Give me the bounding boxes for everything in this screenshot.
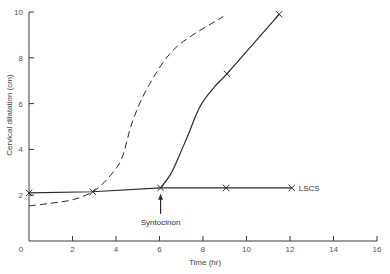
axes: 0246810121416246810	[14, 8, 382, 254]
x-tick-label: 10	[242, 245, 251, 254]
x-marker-icon	[276, 11, 282, 17]
x-tick-label: 6	[157, 245, 162, 254]
x-tick-label: 14	[329, 245, 338, 254]
y-tick-label: 2	[19, 191, 24, 200]
series-layer	[26, 11, 295, 206]
labour-progress-chart: 0246810121416246810 SyntocinonLSCS Time …	[0, 0, 390, 274]
y-tick-label: 8	[19, 54, 24, 63]
annotations-layer: SyntocinonLSCS	[141, 184, 320, 227]
syntocinon-label: Syntocinon	[141, 218, 181, 227]
x-marker-icon	[224, 71, 230, 77]
lscs-label: LSCS	[299, 184, 320, 193]
dashed-curve-line	[29, 17, 223, 206]
x-tick-label: 12	[286, 245, 295, 254]
x-tick-label: 8	[201, 245, 206, 254]
x-tick-label: 16	[373, 245, 382, 254]
y-tick-label: 6	[19, 100, 24, 109]
x-tick-label: 4	[114, 245, 119, 254]
x-tick-label: 0	[19, 245, 24, 254]
y-tick-label: 10	[14, 8, 23, 17]
y-tick-label: 4	[19, 145, 24, 154]
y-axis-title: Cervical dilatation (cm)	[5, 74, 14, 156]
x-tick-label: 2	[70, 245, 75, 254]
solid-rising-line	[161, 14, 280, 188]
x-axis-title: Time (hr)	[189, 258, 221, 267]
arrowhead-icon	[158, 194, 163, 200]
